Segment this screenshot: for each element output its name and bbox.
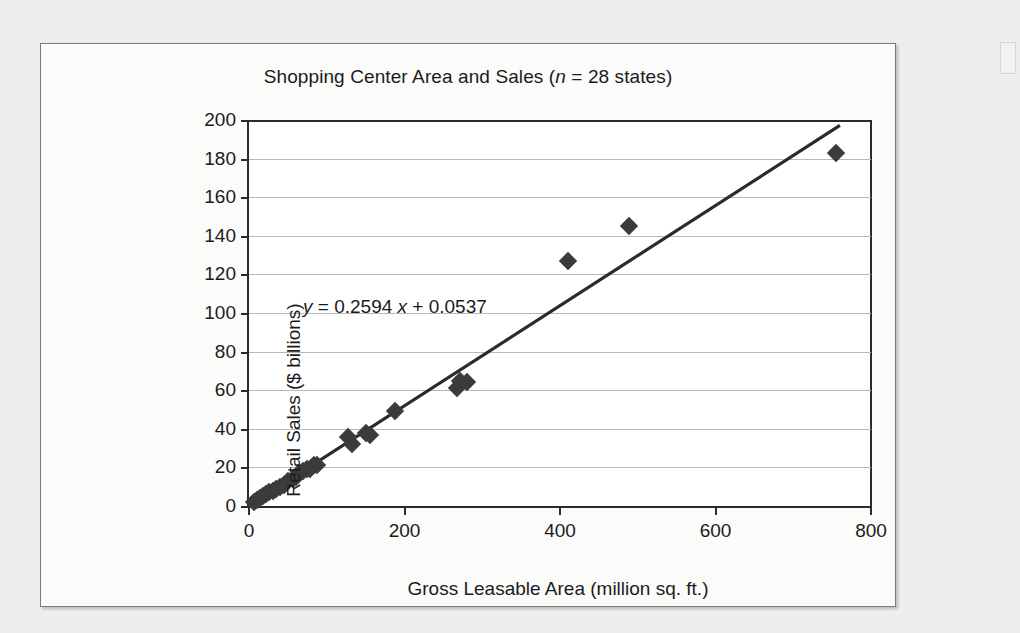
equation-part-a: = 0.2594 <box>313 296 398 317</box>
y-tick-80 <box>241 352 249 354</box>
gridline-y-60 <box>249 390 871 391</box>
page-corner-mark <box>1000 42 1016 74</box>
gridline-y-200 <box>249 120 871 122</box>
x-axis-title: Gross Leasable Area (million sq. ft.) <box>247 578 869 600</box>
gridline-y-20 <box>249 467 871 468</box>
gridline-y-80 <box>249 352 871 353</box>
data-point <box>386 402 404 420</box>
y-tick-label-0: 0 <box>225 495 236 517</box>
y-tick-200 <box>241 120 249 122</box>
x-tick-600 <box>715 506 717 515</box>
equation-x-symbol: x <box>398 296 408 317</box>
data-point <box>620 217 638 235</box>
y-tick-label-180: 180 <box>204 148 236 170</box>
regression-equation-annotation: y = 0.2594 x + 0.0537 <box>303 296 487 318</box>
chart-title-n-symbol: n <box>555 66 566 87</box>
y-tick-label-20: 20 <box>215 456 236 478</box>
y-tick-120 <box>241 274 249 276</box>
chart-title-prefix: Shopping Center Area and Sales ( <box>264 66 556 87</box>
x-tick-label-800: 800 <box>855 520 887 542</box>
gridline-y-140 <box>249 236 871 237</box>
chart-title: Shopping Center Area and Sales (n = 28 s… <box>41 66 895 88</box>
y-tick-180 <box>241 159 249 161</box>
plot-area: 020406080100120140160180200 020040060080… <box>247 120 871 508</box>
gridline-y-160 <box>249 197 871 198</box>
y-tick-label-160: 160 <box>204 186 236 208</box>
y-tick-40 <box>241 429 249 431</box>
equation-part-b: + 0.0537 <box>407 296 487 317</box>
y-tick-label-60: 60 <box>215 379 236 401</box>
x-tick-label-400: 400 <box>544 520 576 542</box>
plot-inner: 020406080100120140160180200 020040060080… <box>249 120 871 506</box>
gridline-y-180 <box>249 159 871 160</box>
x-tick-label-0: 0 <box>244 520 255 542</box>
y-tick-label-120: 120 <box>204 263 236 285</box>
x-tick-400 <box>559 506 561 515</box>
y-tick-140 <box>241 236 249 238</box>
y-tick-20 <box>241 467 249 469</box>
figure-frame: Shopping Center Area and Sales (n = 28 s… <box>40 43 896 607</box>
y-tick-100 <box>241 313 249 315</box>
x-tick-label-200: 200 <box>389 520 421 542</box>
x-tick-200 <box>404 506 406 515</box>
data-point <box>559 252 577 270</box>
y-tick-60 <box>241 390 249 392</box>
y-tick-label-100: 100 <box>204 302 236 324</box>
y-tick-label-200: 200 <box>204 109 236 131</box>
gridline-y-120 <box>249 274 871 275</box>
y-axis-title: Retail Sales ($ billions) <box>283 207 305 593</box>
y-tick-160 <box>241 197 249 199</box>
y-tick-label-40: 40 <box>215 418 236 440</box>
x-tick-label-600: 600 <box>700 520 732 542</box>
y-tick-label-140: 140 <box>204 225 236 247</box>
gridline-y-40 <box>249 429 871 430</box>
x-tick-800 <box>870 506 872 515</box>
y-tick-label-80: 80 <box>215 341 236 363</box>
chart-title-suffix: = 28 states) <box>566 66 672 87</box>
